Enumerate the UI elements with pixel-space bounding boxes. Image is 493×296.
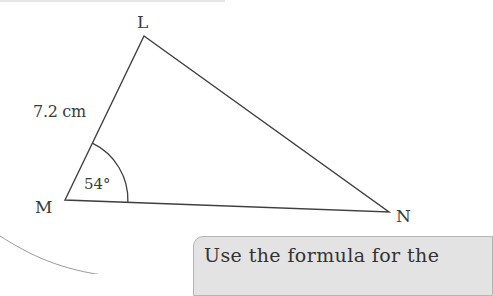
angle-label-m: 54° [84, 177, 111, 192]
side-length-lm: 7.2 cm [33, 104, 86, 120]
hint-box: Use the formula for the [193, 236, 493, 296]
angle-arc-m [92, 143, 128, 202]
triangle-lmn [65, 36, 389, 212]
hint-text: Use the formula for the [204, 244, 439, 266]
vertex-label-l: L [137, 14, 148, 31]
vertex-label-n: N [396, 208, 411, 225]
vertex-label-m: M [35, 199, 52, 216]
page-curve [0, 236, 110, 274]
